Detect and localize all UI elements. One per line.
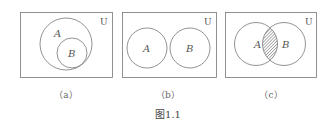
figure-title: 图1.1 bbox=[155, 109, 181, 120]
set-a-label-b: A bbox=[142, 43, 150, 54]
set-b-label-a: B bbox=[67, 48, 75, 59]
universe-label-b: U bbox=[204, 17, 212, 27]
caption-b: （b） bbox=[156, 90, 180, 100]
set-b-label-b: B bbox=[185, 43, 193, 54]
caption-a: （a） bbox=[54, 90, 77, 100]
set-a-label-a: A bbox=[53, 28, 61, 39]
universe-label-a: U bbox=[100, 17, 108, 27]
venn-figure: U A B （a） U A B （b） U A B （c） 图1.1 bbox=[0, 0, 333, 126]
universe-box-b bbox=[123, 13, 217, 78]
set-b-label-c: B bbox=[281, 39, 289, 50]
panel-a: U A B （a） bbox=[21, 13, 113, 101]
panel-c: U A B （c） bbox=[226, 13, 317, 101]
caption-c: （c） bbox=[259, 90, 282, 100]
set-a-label-c: A bbox=[253, 39, 261, 50]
panel-b: U A B （b） bbox=[123, 13, 217, 101]
universe-label-c: U bbox=[305, 17, 313, 27]
universe-box-a bbox=[21, 13, 113, 78]
